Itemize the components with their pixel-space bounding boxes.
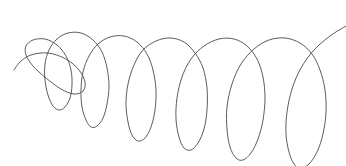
figure-root [0, 0, 346, 166]
spiral-curve-plot [0, 0, 346, 166]
